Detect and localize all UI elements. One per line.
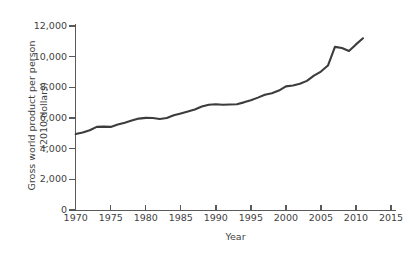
series-line — [76, 38, 363, 134]
plot-area — [0, 0, 418, 261]
chart-container: 02,0004,0006,0008,00010,00012,000 197019… — [0, 0, 418, 261]
